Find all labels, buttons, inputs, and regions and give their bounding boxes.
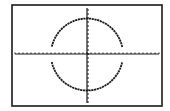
graph-screen — [0, 0, 170, 111]
y-axis — [87, 8, 89, 103]
